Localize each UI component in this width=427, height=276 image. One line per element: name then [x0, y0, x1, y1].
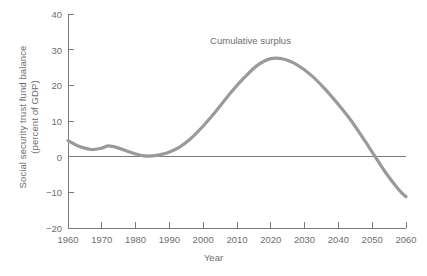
x-tick-label: 2000	[193, 234, 214, 245]
x-tick-label: 1990	[159, 234, 180, 245]
y-tick-label: −10	[28, 187, 62, 198]
x-tick-label: 1980	[125, 234, 146, 245]
x-tick-label: 2030	[294, 234, 315, 245]
x-tick-label: 2020	[260, 234, 281, 245]
data-series-cumulative-surplus	[68, 58, 406, 197]
y-tick-label: 0	[28, 151, 62, 162]
y-tick-label: −20	[28, 223, 62, 234]
x-tick-label: 2050	[362, 234, 383, 245]
y-tick-label: 40	[28, 9, 62, 20]
x-axis-title: Year	[0, 252, 427, 263]
y-tick-label: 10	[28, 116, 62, 127]
x-tick-label: 2010	[226, 234, 247, 245]
chart-container: Social security trust fund balance (perc…	[0, 0, 427, 276]
x-tick-label: 2040	[328, 234, 349, 245]
series-line	[68, 58, 406, 197]
axes	[68, 14, 406, 228]
x-tick-label: 1970	[91, 234, 112, 245]
y-tick-label: 20	[28, 80, 62, 91]
y-tick-label: 30	[28, 44, 62, 55]
x-tick-label: 1960	[57, 234, 78, 245]
series-annotation-label: Cumulative surplus	[210, 35, 291, 46]
x-tick-label: 2060	[395, 234, 416, 245]
